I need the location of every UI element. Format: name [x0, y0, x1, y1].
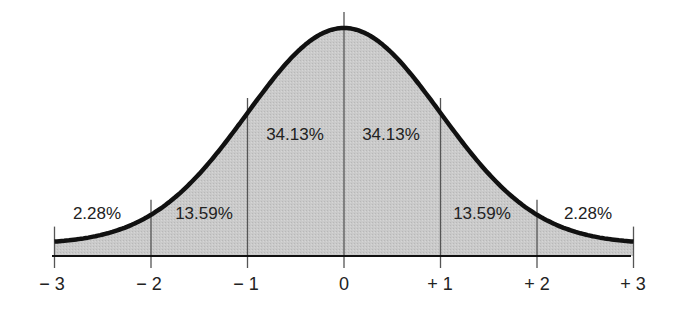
- tick-label-neg2: − 2: [136, 274, 162, 294]
- region-label-neg2-neg1: 13.59%: [175, 204, 233, 223]
- normal-distribution-chart: 2.28% 13.59% 34.13% 34.13% 13.59% 2.28% …: [0, 0, 675, 311]
- tick-label-neg1: − 1: [233, 274, 259, 294]
- region-label-neg1-0: 34.13%: [266, 125, 324, 144]
- tick-label-pos2: + 2: [524, 274, 550, 294]
- tick-label-pos1: + 1: [427, 274, 453, 294]
- region-label-pos1-pos2: 13.59%: [453, 204, 511, 223]
- region-label-neg3-neg2: 2.28%: [73, 204, 121, 223]
- region-label-pos2-pos3: 2.28%: [564, 204, 612, 223]
- region-label-0-pos1: 34.13%: [362, 125, 420, 144]
- tick-label-neg3: − 3: [39, 274, 65, 294]
- tick-label-pos3: + 3: [620, 274, 646, 294]
- tick-label-0: 0: [339, 274, 349, 294]
